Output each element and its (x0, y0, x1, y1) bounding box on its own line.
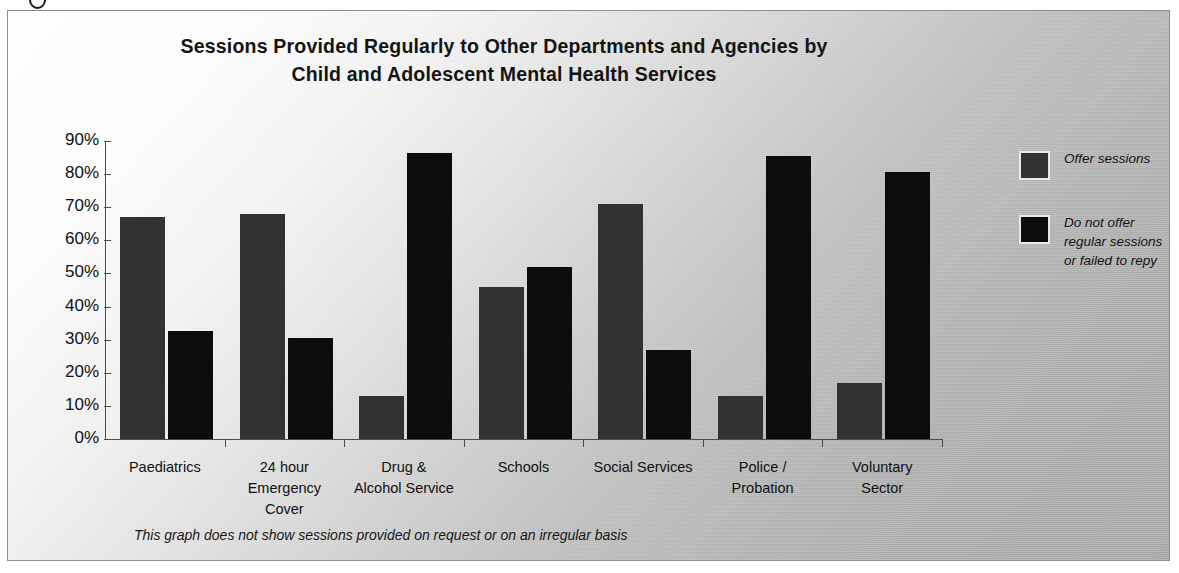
x-axis-line (105, 439, 943, 440)
y-tick-label: 10% (65, 395, 99, 415)
legend-item-nooffer: Do not offerregular sessionsor failed to… (1019, 213, 1169, 270)
y-tick-label: 20% (65, 362, 99, 382)
bar-offer-sessions (718, 396, 763, 439)
x-tick (464, 439, 465, 447)
y-tick-label: 0% (74, 428, 99, 448)
bar-group (704, 141, 824, 439)
x-tick (703, 439, 704, 447)
legend-label-nooffer: Do not offerregular sessionsor failed to… (1064, 213, 1169, 270)
x-tick (822, 439, 823, 447)
bar-do-not-offer (766, 156, 811, 439)
legend-swatch-offer (1019, 151, 1050, 180)
bar-group (106, 141, 226, 439)
chart-legend: Offer sessionsDo not offerregular sessio… (1019, 149, 1169, 304)
x-axis-label-line: Cover (204, 499, 364, 520)
chart-title-line-1: Sessions Provided Regularly to Other Dep… (104, 33, 904, 61)
chart-title-line-2: Child and Adolescent Mental Health Servi… (104, 61, 904, 89)
bar-do-not-offer (885, 172, 930, 439)
chart-footnote: This graph does not show sessions provid… (134, 527, 627, 543)
bar-offer-sessions (359, 396, 404, 439)
x-tick (583, 439, 584, 447)
legend-swatch-nooffer (1019, 215, 1050, 244)
bar-group (345, 141, 465, 439)
bar-do-not-offer (407, 153, 452, 439)
y-tick-label: 70% (65, 196, 99, 216)
bar-offer-sessions (240, 214, 285, 439)
bars-layer (106, 141, 943, 439)
bar-do-not-offer (288, 338, 333, 439)
y-tick-mark (104, 439, 111, 440)
bar-group (226, 141, 346, 439)
y-tick-label: 60% (65, 229, 99, 249)
bar-do-not-offer (646, 350, 691, 439)
x-axis-label-line: Sector (802, 478, 962, 499)
legend-label-line: or failed to repy (1064, 251, 1169, 270)
chart-figure-frame: Sessions Provided Regularly to Other Dep… (7, 10, 1170, 561)
y-tick-label: 90% (65, 130, 99, 150)
y-tick-label: 80% (65, 163, 99, 183)
cropped-text-descender-artifact (29, 0, 46, 9)
bar-offer-sessions (837, 383, 882, 439)
legend-label-line: regular sessions (1064, 232, 1169, 251)
bar-group (823, 141, 943, 439)
y-tick-label: 30% (65, 329, 99, 349)
chart-title: Sessions Provided Regularly to Other Dep… (104, 33, 904, 88)
x-tick (942, 439, 943, 447)
bar-offer-sessions (120, 217, 165, 439)
bar-group (584, 141, 704, 439)
y-tick-label: 50% (65, 262, 99, 282)
bar-group (465, 141, 585, 439)
legend-item-offer: Offer sessions (1019, 149, 1169, 179)
bar-offer-sessions (479, 287, 524, 439)
figure-page: Sessions Provided Regularly to Other Dep… (0, 0, 1179, 573)
legend-label-offer: Offer sessions (1064, 149, 1169, 168)
x-axis-label: VoluntarySector (802, 457, 962, 499)
bar-do-not-offer (527, 267, 572, 439)
legend-label-line: Offer sessions (1064, 149, 1169, 168)
plot-area: 90%80%70%60%50%40%30%20%10%0% Paediatric… (105, 141, 943, 440)
x-tick (225, 439, 226, 447)
x-tick (344, 439, 345, 447)
x-axis-label-line: Voluntary (802, 457, 962, 478)
bar-offer-sessions (598, 204, 643, 439)
legend-label-line: Do not offer (1064, 213, 1169, 232)
y-tick-label: 40% (65, 296, 99, 316)
x-axis-label-line: Alcohol Service (324, 478, 484, 499)
bar-do-not-offer (168, 331, 213, 439)
